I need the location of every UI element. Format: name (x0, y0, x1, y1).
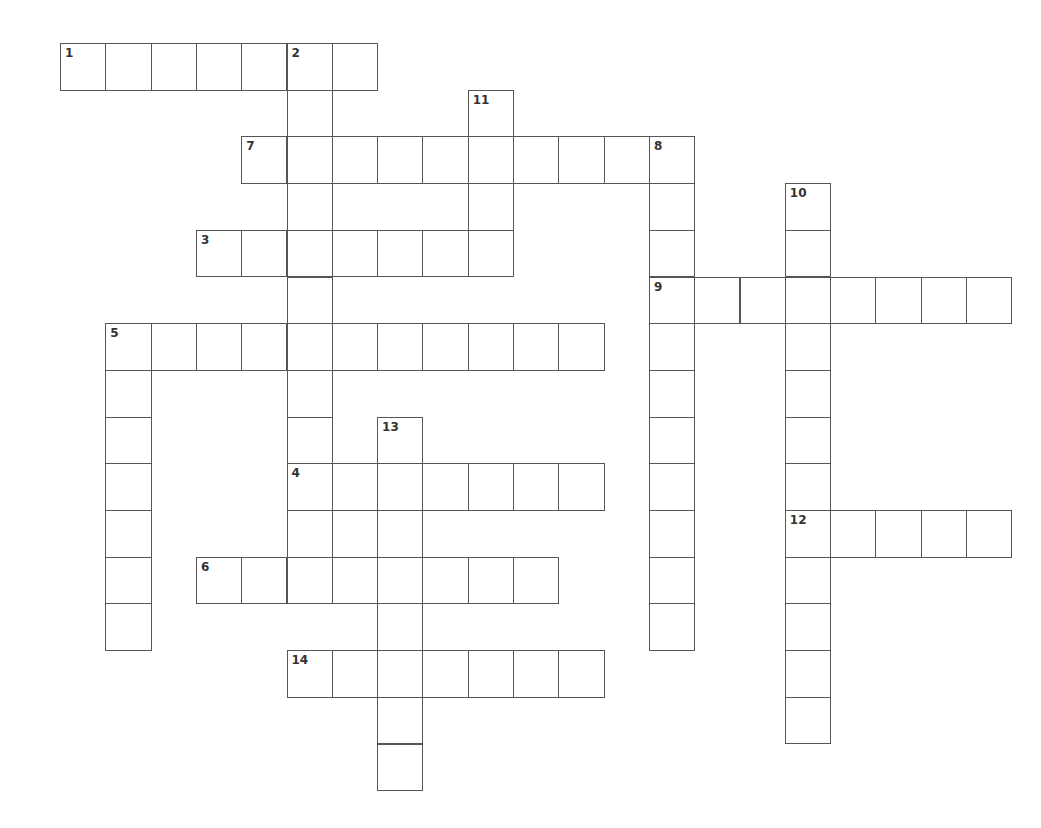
crossword-cell[interactable] (241, 230, 287, 278)
crossword-cell[interactable] (377, 744, 423, 792)
crossword-cell[interactable] (377, 697, 423, 745)
crossword-cell[interactable] (287, 90, 333, 138)
crossword-cell[interactable] (649, 463, 695, 511)
crossword-cell[interactable]: 11 (468, 90, 514, 138)
crossword-cell[interactable] (468, 557, 514, 605)
crossword-cell[interactable] (332, 136, 378, 184)
crossword-cell[interactable] (649, 417, 695, 465)
crossword-cell[interactable] (649, 370, 695, 418)
crossword-cell[interactable] (558, 463, 604, 511)
crossword-cell[interactable] (513, 650, 559, 698)
crossword-cell[interactable] (649, 603, 695, 651)
crossword-cell[interactable] (558, 650, 604, 698)
crossword-cell[interactable] (422, 230, 468, 278)
crossword-cell[interactable] (513, 323, 559, 371)
crossword-cell[interactable]: 4 (287, 463, 333, 511)
crossword-cell[interactable] (105, 603, 151, 651)
crossword-cell[interactable] (377, 323, 423, 371)
crossword-cell[interactable] (287, 183, 333, 231)
crossword-cell[interactable] (785, 603, 831, 651)
crossword-cell[interactable] (422, 557, 468, 605)
crossword-cell[interactable] (332, 230, 378, 278)
crossword-cell[interactable] (332, 323, 378, 371)
crossword-cell[interactable] (785, 417, 831, 465)
crossword-cell[interactable] (241, 557, 287, 605)
crossword-cell[interactable] (785, 650, 831, 698)
crossword-cell[interactable] (830, 277, 876, 325)
crossword-cell[interactable] (830, 510, 876, 558)
crossword-cell[interactable] (332, 510, 378, 558)
crossword-cell[interactable] (287, 323, 333, 371)
crossword-cell[interactable] (785, 277, 831, 325)
crossword-cell[interactable]: 13 (377, 417, 423, 465)
crossword-cell[interactable]: 1 (60, 43, 106, 91)
crossword-cell[interactable] (513, 557, 559, 605)
crossword-cell[interactable] (377, 603, 423, 651)
crossword-cell[interactable] (287, 510, 333, 558)
crossword-cell[interactable] (196, 43, 242, 91)
crossword-cell[interactable] (287, 136, 333, 184)
crossword-cell[interactable] (468, 323, 514, 371)
crossword-cell[interactable] (377, 230, 423, 278)
crossword-cell[interactable] (422, 650, 468, 698)
crossword-cell[interactable] (196, 323, 242, 371)
crossword-cell[interactable] (287, 370, 333, 418)
crossword-cell[interactable] (558, 323, 604, 371)
crossword-cell[interactable] (649, 230, 695, 278)
crossword-cell[interactable]: 10 (785, 183, 831, 231)
crossword-cell[interactable] (377, 510, 423, 558)
crossword-cell[interactable] (332, 650, 378, 698)
crossword-cell[interactable] (377, 463, 423, 511)
crossword-cell[interactable] (468, 463, 514, 511)
crossword-cell[interactable]: 6 (196, 557, 242, 605)
crossword-cell[interactable] (241, 323, 287, 371)
crossword-cell[interactable] (377, 136, 423, 184)
crossword-cell[interactable] (332, 557, 378, 605)
crossword-cell[interactable]: 8 (649, 136, 695, 184)
crossword-cell[interactable] (422, 323, 468, 371)
crossword-cell[interactable] (105, 463, 151, 511)
crossword-cell[interactable]: 12 (785, 510, 831, 558)
crossword-cell[interactable] (422, 136, 468, 184)
crossword-cell[interactable] (241, 43, 287, 91)
crossword-cell[interactable] (785, 323, 831, 371)
crossword-cell[interactable]: 7 (241, 136, 287, 184)
crossword-cell[interactable]: 2 (287, 43, 333, 91)
crossword-cell[interactable] (785, 370, 831, 418)
crossword-cell[interactable] (921, 510, 967, 558)
crossword-cell[interactable] (468, 650, 514, 698)
crossword-cell[interactable] (513, 463, 559, 511)
crossword-cell[interactable] (921, 277, 967, 325)
crossword-cell[interactable] (558, 136, 604, 184)
crossword-cell[interactable] (422, 463, 468, 511)
crossword-cell[interactable] (377, 650, 423, 698)
crossword-cell[interactable] (287, 230, 333, 278)
crossword-cell[interactable] (105, 370, 151, 418)
crossword-cell[interactable] (151, 323, 197, 371)
crossword-cell[interactable] (105, 43, 151, 91)
crossword-cell[interactable]: 3 (196, 230, 242, 278)
crossword-cell[interactable] (785, 557, 831, 605)
crossword-cell[interactable] (649, 183, 695, 231)
crossword-cell[interactable] (966, 277, 1012, 325)
crossword-cell[interactable] (105, 557, 151, 605)
crossword-cell[interactable] (513, 136, 559, 184)
crossword-cell[interactable] (287, 277, 333, 325)
crossword-cell[interactable] (332, 43, 378, 91)
crossword-cell[interactable] (604, 136, 650, 184)
crossword-cell[interactable] (649, 557, 695, 605)
crossword-cell[interactable] (875, 277, 921, 325)
crossword-cell[interactable]: 14 (287, 650, 333, 698)
crossword-cell[interactable] (740, 277, 786, 325)
crossword-cell[interactable] (151, 43, 197, 91)
crossword-cell[interactable] (468, 230, 514, 278)
crossword-cell[interactable] (105, 417, 151, 465)
crossword-cell[interactable] (785, 697, 831, 745)
crossword-cell[interactable] (468, 136, 514, 184)
crossword-cell[interactable] (785, 230, 831, 278)
crossword-cell[interactable] (694, 277, 740, 325)
crossword-cell[interactable] (332, 463, 378, 511)
crossword-cell[interactable]: 9 (649, 277, 695, 325)
crossword-cell[interactable] (875, 510, 921, 558)
crossword-cell[interactable] (287, 557, 333, 605)
